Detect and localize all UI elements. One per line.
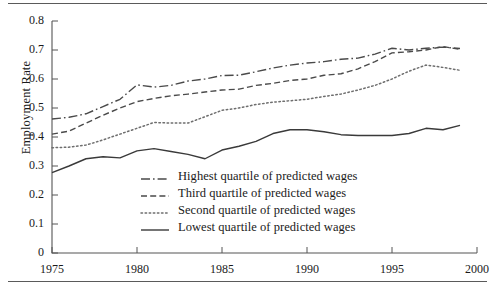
legend-label: Third quartile of predicted wages: [178, 186, 346, 201]
legend-label: Lowest quartile of predicted wages: [178, 220, 355, 235]
y-tick-label: 0.3: [10, 158, 44, 173]
y-tick-label: 0: [10, 245, 44, 260]
chart-plot-area: [0, 0, 495, 288]
y-tick-label: 0.4: [10, 129, 44, 144]
legend-item: Lowest quartile of predicted wages: [140, 219, 357, 236]
x-tick-label: 1980: [115, 262, 159, 277]
y-tick-label: 0.5: [10, 100, 44, 115]
y-tick-label: 0.6: [10, 71, 44, 86]
legend-line-sample-icon: [140, 222, 170, 234]
y-tick-label: 0.1: [10, 216, 44, 231]
series-line: [52, 47, 460, 135]
legend-item: Highest quartile of predicted wages: [140, 168, 357, 185]
legend-item: Third quartile of predicted wages: [140, 185, 357, 202]
x-tick-label: 1990: [285, 262, 329, 277]
legend-label: Highest quartile of predicted wages: [178, 169, 357, 184]
x-tick-label: 1985: [200, 262, 244, 277]
series-line: [52, 47, 460, 119]
legend-line-sample-icon: [140, 205, 170, 217]
chart-legend: Highest quartile of predicted wagesThird…: [140, 168, 357, 236]
legend-line-sample-icon: [140, 171, 170, 183]
y-tick-label: 0.8: [10, 13, 44, 28]
series-line: [52, 125, 460, 172]
x-tick-label: 1995: [370, 262, 414, 277]
legend-item: Second quartile of predicted wages: [140, 202, 357, 219]
x-tick-label: 2000: [455, 262, 495, 277]
series-group: [52, 47, 460, 173]
y-tick-label: 0.7: [10, 42, 44, 57]
x-tick-label: 1975: [30, 262, 74, 277]
legend-label: Second quartile of predicted wages: [178, 203, 355, 218]
legend-line-sample-icon: [140, 188, 170, 200]
y-tick-label: 0.2: [10, 187, 44, 202]
figure-container: Employment Rate 00.10.20.30.40.50.60.70.…: [0, 0, 495, 288]
